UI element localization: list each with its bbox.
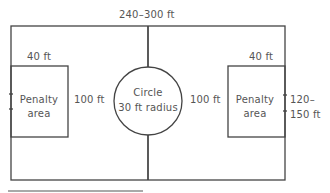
right-penalty-name: Penalty area xyxy=(234,94,276,120)
left-penalty-name: Penalty area xyxy=(18,94,60,120)
circle-label: Circle 30 ft radius xyxy=(114,87,182,114)
right-penalty-width-label: 40 ft xyxy=(249,51,273,63)
circle-radius: 30 ft radius xyxy=(114,102,182,114)
left-penalty-name-line1: Penalty xyxy=(18,94,60,106)
field-width-label: 120– 150 ft xyxy=(290,94,321,121)
right-penalty-height-label: 100 ft xyxy=(190,94,221,106)
soccer-field-diagram: 240–300 ft 40 ft 40 ft Penalty area Pena… xyxy=(0,0,330,193)
left-penalty-name-line2: area xyxy=(18,108,60,120)
left-penalty-height-label: 100 ft xyxy=(74,94,105,106)
circle-name: Circle xyxy=(114,87,182,99)
right-penalty-name-line2: area xyxy=(234,108,276,120)
field-length-label: 240–300 ft xyxy=(119,9,175,21)
field-width-line1: 120– xyxy=(290,94,321,106)
left-penalty-width-label: 40 ft xyxy=(27,51,51,63)
field-width-line2: 150 ft xyxy=(290,109,321,121)
right-penalty-name-line1: Penalty xyxy=(234,94,276,106)
